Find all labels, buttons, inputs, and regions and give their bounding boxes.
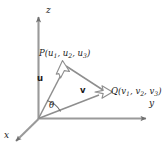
segment-pq [66, 66, 106, 92]
x-axis-label: x [4, 131, 9, 140]
point-p-u1: u1 [48, 48, 57, 58]
vector-diagram-figure: z y x P(u1, u2, u3) Q(v1, v2, v3) u v θ [0, 0, 166, 152]
point-q-v1: v1 [121, 86, 130, 96]
vector-v-arrowhead [95, 86, 113, 98]
theta-label: θ [49, 101, 54, 110]
y-axis-label: y [149, 99, 154, 108]
vector-u-arrowhead [56, 61, 69, 79]
point-p-u2: u2 [63, 48, 72, 58]
point-q-v2: v2 [135, 86, 144, 96]
diagram-canvas [0, 0, 166, 152]
z-axis-label: z [46, 6, 51, 15]
x-axis [16, 119, 39, 141]
vector-v-shaft [39, 95, 100, 119]
vector-v-label: v [80, 86, 86, 95]
point-q-label: Q(v1, v2, v3) [111, 87, 162, 97]
point-p-u3: u3 [78, 48, 87, 58]
vector-u [39, 61, 70, 119]
vector-u-label: u [37, 74, 43, 83]
point-q-v3: v3 [150, 86, 159, 96]
point-p-label: P(u1, u2, u3) [39, 49, 90, 59]
axis-group [16, 17, 146, 141]
